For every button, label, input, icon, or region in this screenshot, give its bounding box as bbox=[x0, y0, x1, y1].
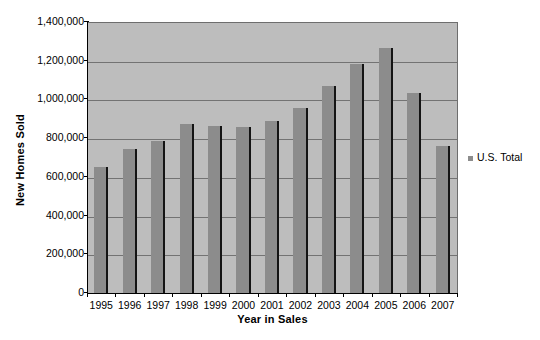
x-tick-mark bbox=[429, 293, 430, 297]
x-tick-label-2005: 2005 bbox=[372, 299, 400, 311]
bar-rect[interactable] bbox=[436, 146, 450, 294]
bar-rect[interactable] bbox=[322, 86, 336, 294]
x-axis-title: Year in Sales bbox=[87, 313, 458, 325]
bar-rect[interactable] bbox=[265, 121, 279, 294]
bar-1995[interactable] bbox=[94, 23, 108, 294]
y-tick-6: 1,200,000 bbox=[8, 54, 84, 68]
chart-legend: U.S. Total bbox=[468, 151, 522, 163]
bar-rect[interactable] bbox=[151, 141, 165, 294]
legend-label-us-total: U.S. Total bbox=[477, 151, 522, 163]
x-tick-label-2004: 2004 bbox=[343, 299, 371, 311]
y-axis-line bbox=[87, 22, 88, 294]
bar-rect[interactable] bbox=[379, 48, 393, 294]
x-tick-label-2002: 2002 bbox=[286, 299, 314, 311]
y-axis-ticks: 0200,000400,000600,000800,0001,000,0001,… bbox=[8, 0, 84, 340]
x-tick-label-1996: 1996 bbox=[115, 299, 143, 311]
bar-2007[interactable] bbox=[436, 23, 450, 294]
x-tick-label-1997: 1997 bbox=[144, 299, 172, 311]
y-tick-label: 200,000 bbox=[12, 247, 84, 259]
y-tick-2: 400,000 bbox=[8, 209, 84, 223]
x-tick-mark bbox=[286, 293, 287, 297]
bar-rect[interactable] bbox=[236, 127, 250, 294]
legend-square-marker bbox=[468, 156, 473, 161]
bar-2006[interactable] bbox=[407, 23, 421, 294]
y-tick-3: 600,000 bbox=[8, 170, 84, 184]
x-axis-line bbox=[87, 293, 458, 294]
x-tick-label-1999: 1999 bbox=[201, 299, 229, 311]
bar-1999[interactable] bbox=[208, 23, 222, 294]
x-tick-mark bbox=[372, 293, 373, 297]
x-tick-mark bbox=[229, 293, 230, 297]
y-tick-label: 1,000,000 bbox=[12, 92, 84, 104]
x-tick-mark bbox=[115, 293, 116, 297]
y-tick-4: 800,000 bbox=[8, 131, 84, 145]
y-tick-label: 1,200,000 bbox=[12, 54, 84, 66]
bar-rect[interactable] bbox=[94, 167, 108, 294]
bar-rect[interactable] bbox=[407, 93, 421, 294]
bar-2004[interactable] bbox=[350, 23, 364, 294]
bar-rect[interactable] bbox=[350, 64, 364, 294]
x-tick-mark bbox=[87, 293, 88, 297]
chart-figure: New Homes Sold 0200,000400,000600,000800… bbox=[0, 0, 540, 340]
y-tick-label: 400,000 bbox=[12, 209, 84, 221]
y-tick-5: 1,000,000 bbox=[8, 92, 84, 106]
bar-rect[interactable] bbox=[208, 126, 222, 294]
bar-1998[interactable] bbox=[180, 23, 194, 294]
x-tick-mark bbox=[258, 293, 259, 297]
plot-area bbox=[87, 22, 458, 294]
bar-rect[interactable] bbox=[293, 108, 307, 294]
x-tick-mark bbox=[201, 293, 202, 297]
bar-2001[interactable] bbox=[265, 23, 279, 294]
x-tick-label-2001: 2001 bbox=[258, 299, 286, 311]
x-tick-mark bbox=[315, 293, 316, 297]
bar-1996[interactable] bbox=[123, 23, 137, 294]
x-tick-mark bbox=[457, 293, 458, 297]
y-tick-label: 800,000 bbox=[12, 131, 84, 143]
x-tick-mark bbox=[172, 293, 173, 297]
bar-2005[interactable] bbox=[379, 23, 393, 294]
x-tick-label-1995: 1995 bbox=[87, 299, 115, 311]
x-tick-label-2003: 2003 bbox=[315, 299, 343, 311]
x-tick-mark bbox=[144, 293, 145, 297]
bar-1997[interactable] bbox=[151, 23, 165, 294]
x-tick-label-2000: 2000 bbox=[229, 299, 257, 311]
bar-rect[interactable] bbox=[180, 124, 194, 294]
y-tick-7: 1,400,000 bbox=[8, 15, 84, 29]
x-tick-mark bbox=[343, 293, 344, 297]
x-tick-label-2006: 2006 bbox=[400, 299, 428, 311]
y-tick-label: 600,000 bbox=[12, 170, 84, 182]
bar-2002[interactable] bbox=[293, 23, 307, 294]
bar-2003[interactable] bbox=[322, 23, 336, 294]
y-tick-1: 200,000 bbox=[8, 247, 84, 261]
y-tick-label: 0 bbox=[12, 286, 84, 298]
x-tick-mark bbox=[400, 293, 401, 297]
bar-rect[interactable] bbox=[123, 149, 137, 294]
y-tick-label: 1,400,000 bbox=[12, 15, 84, 27]
x-tick-label-1998: 1998 bbox=[172, 299, 200, 311]
bar-2000[interactable] bbox=[236, 23, 250, 294]
x-tick-label-2007: 2007 bbox=[429, 299, 457, 311]
y-tick-0: 0 bbox=[8, 286, 84, 300]
